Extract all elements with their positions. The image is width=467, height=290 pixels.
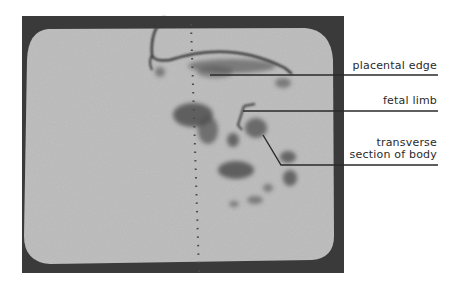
ultrasound-figure: placental edge fetal limb transverse sec…	[0, 0, 467, 290]
label-placental-edge: placental edge	[353, 60, 437, 72]
label-fetal-limb: fetal limb	[383, 95, 437, 107]
label-transverse-section: transverse section of body	[350, 137, 437, 161]
label-transverse-line2: section of body	[350, 149, 437, 161]
monitor-screen	[24, 28, 334, 264]
